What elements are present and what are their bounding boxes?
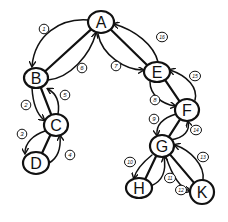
node-label: G xyxy=(156,138,168,155)
node-D: D xyxy=(23,152,49,174)
node-A: A xyxy=(88,11,114,33)
graph-diagram: 12345678910111213141516 ABCDEFGHK xyxy=(0,0,228,222)
node-label: K xyxy=(197,184,208,201)
step-label-6: 6 xyxy=(77,63,87,73)
node-B: B xyxy=(24,68,48,88)
node-label: F xyxy=(182,102,192,119)
step-label-2: 2 xyxy=(21,100,31,110)
step-number: 13 xyxy=(200,154,206,160)
step-number: 11 xyxy=(167,175,172,181)
node-K: K xyxy=(190,180,214,204)
node-E: E xyxy=(144,62,170,82)
step-label-4: 4 xyxy=(65,150,75,160)
step-number: 16 xyxy=(159,34,165,40)
arrow-step-16-E-to-A xyxy=(114,24,158,62)
step-number: 10 xyxy=(127,159,133,165)
step-label-3: 3 xyxy=(17,129,27,139)
step-label-14: 14 xyxy=(191,125,202,135)
graph-edges-undirected xyxy=(40,29,194,184)
arrow-step-6-B-to-A xyxy=(48,33,96,80)
step-number: 12 xyxy=(178,187,184,193)
step-label-9: 9 xyxy=(149,114,159,124)
node-label: C xyxy=(50,117,62,134)
node-label: A xyxy=(96,14,107,31)
arrow-step-13-K-to-G xyxy=(175,145,203,180)
node-label: H xyxy=(133,180,145,197)
edge-C-D xyxy=(42,134,51,154)
step-label-16: 16 xyxy=(157,32,168,42)
step-label-10: 10 xyxy=(125,157,136,167)
arrow-step-10-G-to-H xyxy=(134,155,152,178)
step-label-12: 12 xyxy=(176,185,187,195)
node-H: H xyxy=(126,178,152,198)
node-G: G xyxy=(150,135,174,157)
arrow-step-4-D-to-C xyxy=(49,136,60,163)
step-number: 14 xyxy=(193,127,199,133)
step-number: 1 xyxy=(42,26,45,32)
step-number: 15 xyxy=(192,73,198,79)
step-label-7: 7 xyxy=(111,61,121,71)
step-number: 2 xyxy=(23,102,28,108)
step-label-13: 13 xyxy=(198,152,209,162)
arrow-step-3-C-to-D xyxy=(25,131,45,153)
node-label: B xyxy=(31,70,42,87)
step-label-11: 11 xyxy=(165,173,176,183)
node-F: F xyxy=(175,99,199,121)
node-C: C xyxy=(44,114,68,136)
node-label: E xyxy=(152,64,163,81)
step-label-1: 1 xyxy=(39,24,49,34)
node-label: D xyxy=(30,155,42,172)
step-label-15: 15 xyxy=(190,71,201,81)
step-label-8: 8 xyxy=(150,95,160,105)
step-label-5: 5 xyxy=(60,90,70,100)
edge-E-F xyxy=(165,79,180,101)
edge-F-G xyxy=(169,119,181,138)
graph-nodes: ABCDEFGHK xyxy=(23,11,214,204)
